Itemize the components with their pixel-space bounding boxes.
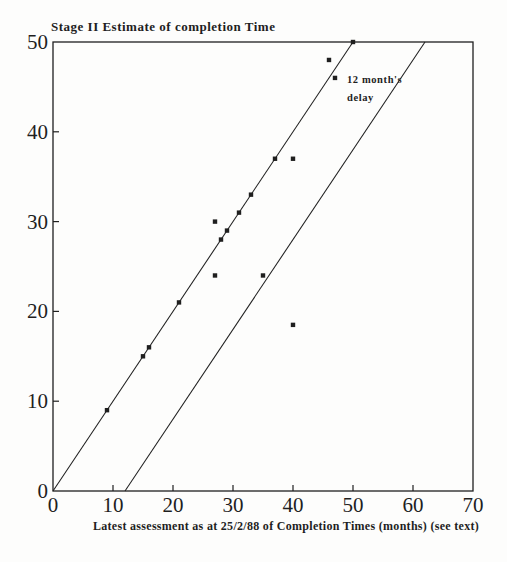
delay-annotation-line1: 12 month's — [347, 74, 402, 85]
equality-line — [53, 42, 353, 491]
axis-tick-labels: 01020304050607001020304050 — [27, 30, 484, 517]
axis-ticks — [53, 132, 413, 491]
delay-annotation-line2: delay — [347, 92, 374, 103]
data-point — [213, 273, 217, 277]
data-point — [249, 192, 253, 196]
x-axis-label: Latest assessment as at 25/2/88 of Compl… — [93, 519, 479, 533]
plot-border — [53, 42, 473, 491]
y-tick-label: 10 — [27, 389, 48, 413]
x-tick-label: 40 — [283, 493, 304, 517]
delay-12-month-line — [125, 42, 425, 491]
x-tick-label: 60 — [403, 493, 424, 517]
data-point — [327, 58, 331, 62]
data-point — [333, 76, 337, 80]
chart-title: Stage II Estimate of completion Time — [51, 19, 275, 34]
x-tick-label: 30 — [223, 493, 244, 517]
data-point — [237, 210, 241, 214]
y-tick-label: 50 — [27, 30, 48, 54]
x-tick-label: 0 — [48, 493, 59, 517]
data-point — [291, 323, 295, 327]
data-point — [141, 354, 145, 358]
scatter-chart: Stage II Estimate of completion Time 010… — [0, 0, 507, 562]
x-tick-label: 70 — [463, 493, 484, 517]
x-tick-label: 50 — [343, 493, 364, 517]
data-point — [261, 273, 265, 277]
plot-frame — [53, 42, 473, 491]
y-tick-label: 0 — [38, 479, 49, 503]
data-point — [273, 157, 277, 161]
y-tick-label: 40 — [27, 120, 48, 144]
scanned-figure: Stage II Estimate of completion Time 010… — [0, 0, 507, 562]
data-point — [291, 157, 295, 161]
data-point — [147, 345, 151, 349]
y-tick-label: 20 — [27, 299, 48, 323]
data-point — [219, 237, 223, 241]
data-point — [177, 300, 181, 304]
data-point — [105, 408, 109, 412]
data-point — [351, 40, 355, 44]
data-point — [213, 219, 217, 223]
y-tick-label: 30 — [27, 210, 48, 234]
trend-lines — [53, 42, 425, 491]
x-tick-label: 20 — [163, 493, 184, 517]
x-tick-label: 10 — [103, 493, 124, 517]
data-point — [225, 228, 229, 232]
